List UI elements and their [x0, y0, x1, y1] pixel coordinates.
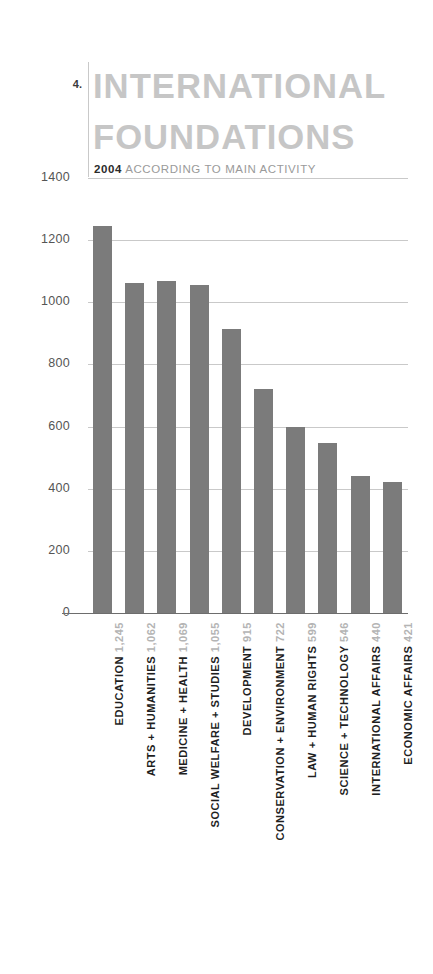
- y-axis-tick-label: 1200: [6, 232, 70, 246]
- bar-value-label: 722: [274, 622, 286, 646]
- bar-value-label: 440: [370, 622, 382, 646]
- bar: [254, 389, 273, 613]
- bar: [222, 329, 241, 613]
- bar: [157, 281, 176, 613]
- bar-value-label: 1,062: [145, 622, 157, 656]
- category-name: INTERNATIONAL AFFAIRS: [370, 646, 382, 796]
- x-axis-category-label: ARTS + HUMANITIES 1,062: [142, 622, 161, 776]
- bar: [190, 285, 209, 613]
- bar-value-label: 915: [241, 622, 253, 646]
- bar: [383, 482, 402, 613]
- x-axis-category-label: MEDICINE + HEALTH 1,069: [174, 622, 193, 775]
- category-name: ECONOMIC AFFAIRS: [402, 646, 414, 765]
- y-axis-tick-label: 600: [6, 419, 70, 433]
- bar-value-label: 421: [402, 622, 414, 646]
- x-axis-category-label: CONSERVATION + ENVIRONMENT 722: [271, 622, 290, 841]
- bar: [351, 476, 370, 613]
- x-axis-category-label: ECONOMIC AFFAIRS 421: [399, 622, 418, 765]
- bar-chart-plot: 1400120010008006004002000 EDUCATION 1,24…: [0, 0, 433, 974]
- category-name: DEVELOPMENT: [241, 646, 253, 736]
- x-axis-category-label: SCIENCE + TECHNOLOGY 546: [335, 622, 354, 795]
- category-name: LAW + HUMAN RIGHTS: [306, 646, 318, 778]
- category-name: SCIENCE + TECHNOLOGY: [338, 646, 350, 796]
- y-axis-tick-label: 400: [6, 481, 70, 495]
- bar-value-label: 1,055: [209, 622, 221, 656]
- y-axis-tick-label: 1400: [6, 170, 70, 184]
- y-axis-tick-label: 200: [6, 543, 70, 557]
- category-name: MEDICINE + HEALTH: [177, 656, 189, 775]
- y-axis-tick-label: 1000: [6, 294, 70, 308]
- bar-value-label: 546: [338, 622, 350, 646]
- bar: [93, 226, 112, 613]
- category-name: CONSERVATION + ENVIRONMENT: [274, 646, 286, 841]
- gridline: [88, 178, 408, 179]
- x-axis-category-label: DEVELOPMENT 915: [238, 622, 257, 735]
- bar: [286, 427, 305, 613]
- x-axis-category-label: SOCIAL WELFARE + STUDIES 1,055: [206, 622, 225, 828]
- x-axis-line: [62, 613, 408, 614]
- bar-value-label: 599: [306, 622, 318, 646]
- y-axis-tick-label: 800: [6, 356, 70, 370]
- category-name: ARTS + HUMANITIES: [145, 656, 157, 776]
- gridline: [88, 240, 408, 241]
- category-name: SOCIAL WELFARE + STUDIES: [209, 656, 221, 828]
- x-axis-category-label: INTERNATIONAL AFFAIRS 440: [367, 622, 386, 796]
- category-name: EDUCATION: [113, 656, 125, 726]
- bar-value-label: 1,245: [113, 622, 125, 656]
- x-axis-category-label: EDUCATION 1,245: [110, 622, 129, 725]
- bar-value-label: 1,069: [177, 622, 189, 656]
- bar: [125, 283, 144, 613]
- y-axis-tick-label: 0: [6, 605, 70, 619]
- x-axis-category-label: LAW + HUMAN RIGHTS 599: [303, 622, 322, 778]
- bar: [318, 443, 337, 613]
